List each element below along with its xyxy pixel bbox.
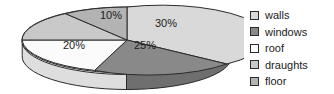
pie-label-walls: 30% <box>155 18 177 29</box>
legend-item-draughts[interactable]: draughts <box>250 57 334 73</box>
pie-label-floor: 10% <box>100 10 122 21</box>
legend-label-draughts: draughts <box>265 59 308 71</box>
legend-label-roof: roof <box>265 42 284 54</box>
pie-chart-plot-area: 30% 25% 20% 10% <box>0 0 244 94</box>
pie-chart-figure: 30% 25% 20% 10% walls windows roof draug… <box>0 0 334 94</box>
legend-swatch-draughts <box>250 60 259 69</box>
legend-swatch-floor <box>250 77 259 86</box>
legend-swatch-roof <box>250 44 259 53</box>
chart-legend: walls windows roof draughts floor <box>250 7 334 91</box>
legend-item-walls[interactable]: walls <box>250 7 334 23</box>
legend-item-windows[interactable]: windows <box>250 24 334 40</box>
legend-label-floor: floor <box>265 75 286 87</box>
legend-label-walls: walls <box>265 9 289 21</box>
legend-item-roof[interactable]: roof <box>250 40 334 56</box>
legend-swatch-walls <box>250 11 259 20</box>
legend-swatch-windows <box>250 27 259 36</box>
legend-label-windows: windows <box>265 26 307 38</box>
pie-label-windows: 25% <box>134 40 156 51</box>
pie-label-roof: 20% <box>63 40 85 51</box>
legend-item-floor[interactable]: floor <box>250 73 334 89</box>
